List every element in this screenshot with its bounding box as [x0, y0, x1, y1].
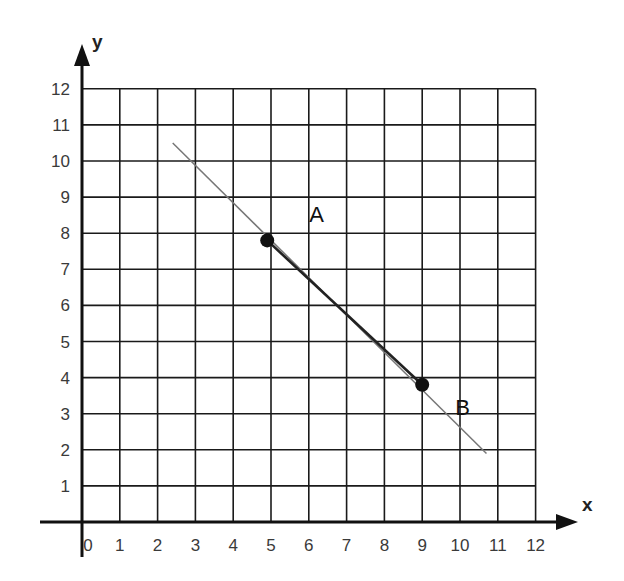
y-tick-label: 7	[61, 260, 70, 279]
y-tick-label: 8	[61, 224, 70, 243]
x-tick-label: 5	[266, 536, 275, 555]
x-tick-label: 7	[342, 536, 351, 555]
point-b-dot	[415, 378, 429, 392]
point-a-dot	[260, 233, 274, 247]
x-tick-label: 11	[489, 536, 507, 555]
y-tick-label: 1	[61, 477, 70, 496]
y-tick-label: 2	[61, 441, 70, 460]
x-tick-label: 0	[83, 536, 92, 555]
y-tick-label: 10	[51, 152, 70, 171]
y-tick-label: 9	[61, 188, 70, 207]
x-tick-label: 6	[304, 536, 313, 555]
grid	[82, 89, 536, 522]
x-tick-label: 3	[191, 536, 200, 555]
point-a-label: A	[309, 202, 324, 227]
point-b-label: B	[455, 395, 470, 420]
x-tick-label: 9	[417, 536, 426, 555]
x-tick-label: 10	[451, 536, 470, 555]
x-tick-label: 4	[228, 536, 237, 555]
x-tick-label: 2	[153, 536, 162, 555]
y-tick-label: 6	[61, 296, 70, 315]
x-tick-label: 1	[115, 536, 124, 555]
y-tick-label: 12	[51, 80, 70, 99]
y-tick-label: 11	[52, 116, 70, 135]
y-tick-label: 5	[61, 333, 70, 352]
y-axis-arrow-icon	[74, 44, 90, 66]
coordinate-plane: 0123456789101112123456789101112 AB y x	[0, 0, 624, 581]
plot-area: AB	[173, 143, 487, 453]
y-axis-label: y	[92, 31, 103, 52]
x-axis-arrow-icon	[556, 514, 578, 530]
x-tick-label: 12	[526, 536, 545, 555]
tick-labels: 0123456789101112123456789101112	[51, 80, 545, 555]
x-tick-label: 8	[380, 536, 389, 555]
x-axis-label: x	[582, 494, 593, 515]
segment-ab	[267, 240, 422, 384]
y-tick-label: 3	[61, 405, 70, 424]
y-tick-label: 4	[61, 369, 70, 388]
